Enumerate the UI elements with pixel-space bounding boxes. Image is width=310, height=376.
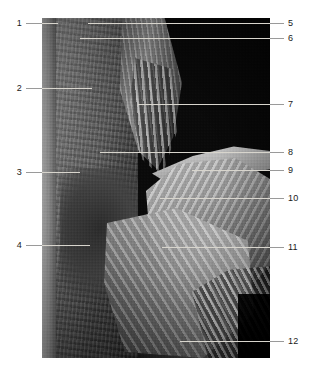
leader-line-5-over-photo [88, 23, 270, 24]
photo-lower-right-shadow [238, 294, 270, 358]
photo-left-tissue-slab [42, 18, 138, 358]
photo-vignette [42, 18, 270, 358]
label-number-1: 1 [10, 18, 22, 28]
leader-line-11-over-photo [162, 247, 270, 248]
photo-film-grain [42, 18, 270, 358]
photo-deltoid-mass [146, 158, 270, 308]
label-number-11: 11 [288, 242, 298, 252]
leader-line-10 [270, 198, 284, 199]
leader-line-5 [270, 23, 284, 24]
label-number-2: 2 [10, 83, 22, 93]
label-number-3: 3 [10, 167, 22, 177]
photo-background-void [42, 18, 270, 358]
leader-line-7-over-photo [138, 104, 270, 105]
photo-muscle-strands [130, 58, 178, 188]
label-number-5: 5 [288, 18, 293, 28]
leader-line-8 [270, 152, 284, 153]
label-number-10: 10 [288, 193, 298, 203]
photo-strap-muscle-column [120, 18, 182, 198]
photo-pectoral-sheet [104, 208, 254, 358]
leader-line-4-over-photo [42, 245, 90, 246]
leader-line-2-over-photo [42, 88, 92, 89]
leader-line-6 [270, 38, 284, 39]
leader-line-10-over-photo [160, 198, 270, 199]
leader-line-3-over-photo [42, 172, 80, 173]
leader-line-8-over-photo [100, 152, 270, 153]
leader-line-7 [270, 104, 284, 105]
photo-arm-strands [192, 266, 270, 358]
label-number-8: 8 [288, 147, 293, 157]
anatomy-figure: 1 2 3 4 5 6 7 8 9 10 11 12 [0, 0, 310, 376]
label-number-12: 12 [288, 336, 298, 346]
leader-line-12-over-photo [180, 341, 270, 342]
label-number-6: 6 [288, 33, 293, 43]
photo-left-cut-edge [42, 18, 56, 358]
label-number-9: 9 [288, 165, 293, 175]
photo-left-shadow [60, 168, 138, 298]
label-number-7: 7 [288, 99, 293, 109]
leader-line-9 [270, 170, 284, 171]
photo-clavicle-ridge [152, 144, 270, 184]
dissection-photograph [42, 18, 270, 358]
leader-line-6-over-photo [80, 38, 270, 39]
leader-line-9-over-photo [192, 170, 270, 171]
leader-line-1-over-photo [42, 23, 58, 24]
leader-line-11 [270, 247, 284, 248]
label-number-4: 4 [10, 240, 22, 250]
leader-line-12 [270, 341, 284, 342]
